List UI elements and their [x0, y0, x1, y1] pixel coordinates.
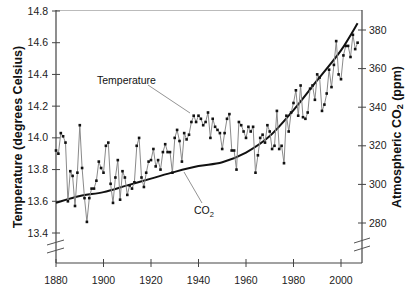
temperature-marker: [323, 103, 326, 106]
temperature-marker: [88, 197, 91, 200]
temperature-marker: [219, 132, 222, 135]
temperature-marker: [86, 221, 89, 224]
left-y-tick-label: 13.8: [28, 163, 49, 175]
temperature-marker: [152, 148, 155, 151]
temperature-marker: [178, 140, 181, 143]
temperature-marker: [126, 194, 129, 197]
temperature-series-markers: [55, 34, 359, 224]
temperature-marker: [197, 114, 200, 117]
temperature-marker: [321, 110, 324, 113]
temperature-marker: [318, 76, 321, 79]
temperature-marker: [185, 138, 188, 141]
temperature-marker: [223, 132, 226, 135]
temperature-marker: [60, 132, 63, 135]
temperature-marker: [280, 145, 283, 148]
left-y-tick-label: 14.4: [28, 68, 49, 80]
temperature-marker: [290, 111, 293, 114]
left-y-tick-label: 14.8: [28, 5, 49, 17]
temperature-marker: [71, 175, 74, 178]
temperature-marker: [157, 159, 160, 162]
temperature-marker: [344, 45, 347, 48]
temperature-marker: [299, 84, 302, 87]
x-tick-label: 1960: [234, 274, 258, 286]
x-tick-label: 1880: [44, 274, 68, 286]
left-y-tick-label: 13.4: [28, 227, 49, 239]
temperature-marker: [325, 92, 328, 95]
temperature-marker: [117, 159, 120, 162]
temperature-marker: [221, 148, 224, 151]
temperature-marker: [266, 124, 269, 127]
temperature-marker: [333, 64, 336, 67]
temperature-marker: [287, 130, 290, 133]
temperature-marker: [171, 171, 174, 174]
temperature-marker: [119, 198, 122, 201]
temperature-marker: [166, 151, 169, 154]
temperature-marker: [67, 200, 70, 203]
temperature-marker: [254, 171, 257, 174]
temperature-annotation-leader: [148, 85, 190, 113]
temperature-marker: [302, 116, 305, 119]
temperature-marker: [216, 129, 219, 132]
x-tick-label: 1940: [187, 274, 211, 286]
temperature-marker: [311, 84, 314, 87]
temperature-series-line: [56, 35, 358, 222]
temperature-marker: [159, 168, 162, 171]
temperature-marker: [204, 121, 207, 124]
temperature-marker: [162, 151, 165, 154]
temperature-marker: [271, 148, 274, 151]
temperature-marker: [195, 121, 198, 124]
temperature-marker: [64, 141, 67, 144]
temperature-marker: [228, 113, 231, 116]
temperature-marker: [98, 160, 101, 163]
temperature-marker: [235, 168, 238, 171]
temperature-marker: [252, 126, 255, 129]
temperature-marker: [261, 133, 264, 136]
temperature-marker: [138, 137, 141, 140]
temperature-marker: [211, 118, 214, 121]
temperature-marker: [328, 68, 331, 71]
temperature-marker: [283, 162, 286, 165]
temperature-marker: [268, 130, 271, 133]
co2-annotation-leader: [184, 172, 202, 203]
temperature-marker: [292, 102, 295, 105]
temperature-marker: [190, 121, 193, 124]
temperature-marker: [55, 149, 58, 152]
temperature-marker: [340, 78, 343, 81]
temperature-marker: [109, 183, 112, 186]
temperature-marker: [183, 132, 186, 135]
left-y-tick-label: 14.2: [28, 100, 49, 112]
temperature-marker: [240, 124, 243, 127]
temperature-marker: [105, 145, 108, 148]
left-y-tick-label: 13.6: [28, 195, 49, 207]
temperature-marker: [93, 187, 96, 190]
temperature-marker: [81, 167, 84, 170]
temperature-marker: [57, 152, 60, 155]
temperature-marker: [100, 167, 103, 170]
left-y-tick-label: 14.6: [28, 36, 49, 48]
temperature-marker: [121, 170, 124, 173]
x-tick-label: 1900: [92, 274, 116, 286]
left-y-axis-title: Temperature (degrees Celsius): [11, 46, 25, 228]
temperature-marker: [297, 114, 300, 117]
temperature-marker: [347, 45, 350, 48]
temperature-marker: [176, 129, 179, 132]
temperature-marker: [233, 149, 236, 152]
temperature-marker: [147, 160, 150, 163]
temperature-marker: [337, 73, 340, 76]
right-y-tick-label: 280: [369, 217, 387, 229]
temperature-marker: [62, 135, 65, 138]
temperature-marker: [316, 73, 319, 76]
temperature-marker: [273, 145, 276, 148]
temperature-marker: [214, 126, 217, 129]
temperature-marker: [188, 133, 191, 136]
temperature-marker: [83, 197, 86, 200]
right-y-tick-label: 340: [369, 101, 387, 113]
temperature-marker: [352, 34, 355, 37]
temperature-marker: [306, 111, 309, 114]
temperature-marker: [74, 205, 77, 208]
left-y-tick-label: 14.0: [28, 131, 49, 143]
temperature-marker: [314, 99, 317, 102]
temperature-marker: [112, 202, 115, 205]
x-tick-label: 1920: [139, 274, 163, 286]
temperature-marker: [200, 118, 203, 121]
